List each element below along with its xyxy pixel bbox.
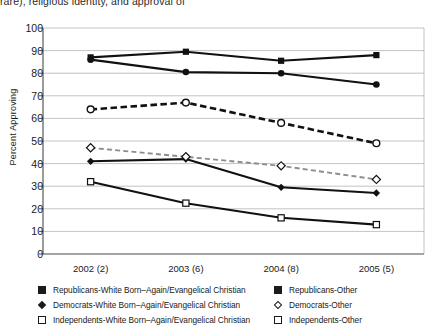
y-axis-tick-label: 10 <box>17 225 43 237</box>
y-axis-tick-label: 20 <box>17 203 43 215</box>
data-series <box>88 49 380 64</box>
y-axis-tick-label: 30 <box>17 180 43 192</box>
open-square-icon <box>272 314 284 326</box>
data-point-marker <box>183 49 189 55</box>
y-axis-tick-label: 50 <box>17 135 43 147</box>
y-axis-tick-label: 60 <box>17 112 43 124</box>
open-square-icon <box>36 314 48 326</box>
data-point-marker <box>373 52 379 58</box>
y-axis-tick-label: 0 <box>17 248 43 260</box>
y-axis-tick-label: 40 <box>17 158 43 170</box>
filled-diamond-icon <box>36 299 48 311</box>
y-axis-tick-label: 100 <box>17 22 43 34</box>
legend-column-left: Republicans-White Born–Again/Evangelical… <box>36 282 250 327</box>
data-point-marker <box>373 140 380 147</box>
data-point-marker <box>87 56 94 63</box>
data-point-marker <box>373 81 380 88</box>
data-series <box>87 99 380 146</box>
y-axis-tick-label: 90 <box>17 45 43 57</box>
chart-figure: rare), religious identity, and approval … <box>0 0 434 335</box>
data-point-marker <box>277 184 284 191</box>
chart-legend: Republicans-White Born–Again/Evangelical… <box>0 282 434 334</box>
series-line <box>91 159 377 193</box>
data-point-marker <box>373 189 380 196</box>
series-line <box>91 182 377 225</box>
series-line <box>91 103 377 144</box>
data-point-marker <box>87 106 94 113</box>
plot-canvas <box>0 14 434 272</box>
data-point-marker <box>372 175 380 183</box>
data-series <box>87 56 379 87</box>
data-point-marker <box>278 58 284 64</box>
data-point-marker <box>277 162 285 170</box>
data-point-marker <box>182 99 189 106</box>
data-point-marker <box>373 222 379 228</box>
data-point-marker <box>87 158 94 165</box>
legend-label: Independents-White Born–Again/Evangelica… <box>53 315 250 325</box>
cut-off-header-text: rare), religious identity, and approval … <box>0 0 434 7</box>
legend-label: Republicans-Other <box>289 285 357 295</box>
series-line <box>91 60 377 85</box>
x-axis-tick-label: 2002 (2) <box>73 263 108 274</box>
data-point-marker <box>278 120 285 127</box>
x-axis-tick-label: 2004 (8) <box>263 263 298 274</box>
data-point-marker <box>183 200 189 206</box>
legend-item: Independents-White Born–Again/Evangelica… <box>36 312 250 327</box>
open-diamond-icon <box>272 299 284 311</box>
series-line <box>91 52 377 61</box>
data-point-marker <box>87 144 95 152</box>
plot-area-wrapper: Percent Approving 0102030405060708090100… <box>0 14 434 272</box>
x-axis-tick-label: 2005 (5) <box>359 263 394 274</box>
data-point-marker <box>278 70 285 77</box>
legend-label: Democrats-Other <box>289 300 352 310</box>
data-point-marker <box>183 69 190 76</box>
y-axis-tick-label: 70 <box>17 90 43 102</box>
y-axis-tick-label: 80 <box>17 67 43 79</box>
legend-label: Democrats-White Born–Again/Evangelical C… <box>53 300 240 310</box>
filled-square-icon <box>272 284 284 296</box>
legend-label: Republicans-White Born–Again/Evangelical… <box>53 285 246 295</box>
legend-item: Independents-Other <box>272 312 362 327</box>
x-axis-tick-label: 2003 (6) <box>168 263 203 274</box>
legend-item: Democrats-Other <box>272 297 362 312</box>
legend-label: Independents-Other <box>289 315 362 325</box>
data-point-marker <box>278 215 284 221</box>
y-axis-tick-labels: 0102030405060708090100 <box>0 14 43 272</box>
legend-item: Republicans-Other <box>272 282 362 297</box>
data-point-marker <box>88 179 94 185</box>
legend-column-right: Republicans-OtherDemocrats-OtherIndepend… <box>272 282 362 327</box>
legend-item: Republicans-White Born–Again/Evangelical… <box>36 282 250 297</box>
legend-item: Democrats-White Born–Again/Evangelical C… <box>36 297 250 312</box>
filled-square-icon <box>36 284 48 296</box>
